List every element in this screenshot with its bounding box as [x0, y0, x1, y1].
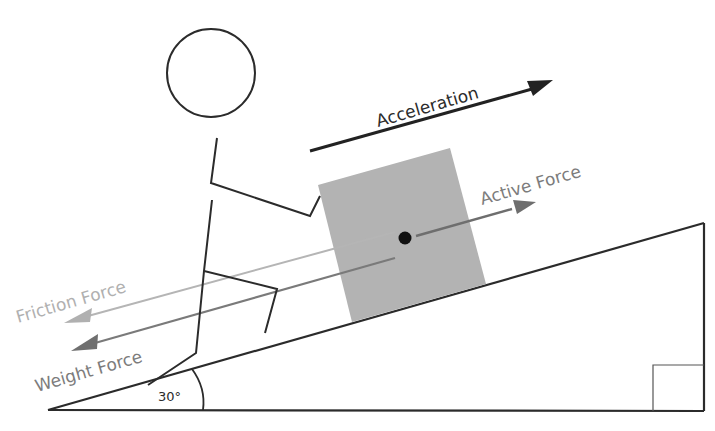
weight-force-arrow [71, 258, 395, 351]
weight-arrowhead [71, 334, 98, 351]
right-angle-marker [653, 365, 704, 411]
angle-label: 30° [158, 389, 181, 404]
friction-force-label: Friction Force [14, 276, 129, 327]
diagram-canvas: 30° Friction Force Weight Force Active F… [0, 0, 715, 431]
stick-figure-arm [211, 138, 320, 216]
stick-figure-head [167, 29, 255, 117]
acceleration-arrowhead [527, 80, 553, 96]
active-arrowhead [513, 200, 536, 214]
incline-base [48, 410, 704, 411]
angle-arc [192, 369, 204, 410]
center-of-mass-dot [399, 232, 412, 245]
stick-figure [148, 29, 320, 385]
